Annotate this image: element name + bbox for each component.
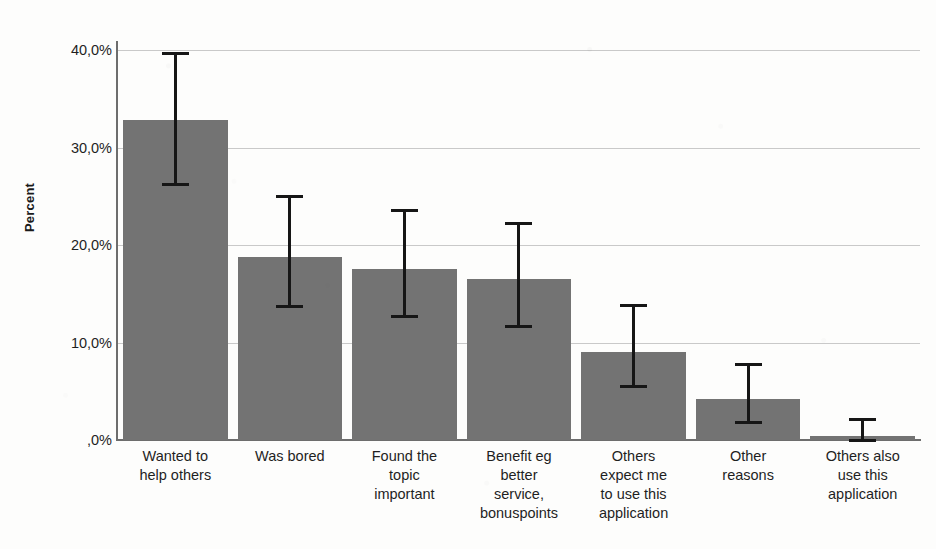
x-axis-label: Was bored bbox=[233, 447, 348, 466]
bar-group[interactable] bbox=[576, 50, 691, 440]
error-bar-cap-lower bbox=[620, 385, 647, 388]
error-bar-cap-upper bbox=[391, 209, 418, 212]
y-tick-label-30: 30,0% bbox=[38, 141, 112, 156]
x-axis-label: Benefit egbetterservice,bonuspoints bbox=[462, 447, 577, 523]
bar-group[interactable] bbox=[347, 50, 462, 440]
bar-group[interactable] bbox=[118, 50, 233, 440]
error-bar-cap-upper bbox=[735, 363, 762, 366]
error-bar-cap-lower bbox=[276, 305, 303, 308]
bar-chart: Percent ,0%10,0%20,0%30,0%40,0% Wanted t… bbox=[0, 0, 936, 549]
error-bar-cap-lower bbox=[391, 315, 418, 318]
bar-group[interactable] bbox=[233, 50, 348, 440]
error-bar-cap-upper bbox=[849, 418, 876, 421]
error-bar-cap-lower bbox=[849, 439, 876, 442]
y-tick-label-0: ,0% bbox=[38, 433, 112, 448]
error-bar-cap-upper bbox=[162, 52, 189, 55]
error-bar-cap-lower bbox=[505, 325, 532, 328]
error-bar-cap-upper bbox=[620, 304, 647, 307]
x-axis-label: Otherreasons bbox=[691, 447, 806, 485]
x-axis-label: Found thetopicimportant bbox=[347, 447, 462, 504]
error-bar-cap-upper bbox=[276, 195, 303, 198]
x-axis-category-labels: Wanted tohelp othersWas boredFound theto… bbox=[118, 447, 920, 547]
error-bar-line bbox=[747, 364, 750, 423]
error-bar-line bbox=[632, 305, 635, 386]
bar-group[interactable] bbox=[805, 50, 920, 440]
y-tick-label-40: 40,0% bbox=[38, 43, 112, 58]
plot-area bbox=[118, 50, 920, 440]
y-axis-tick-labels: ,0%10,0%20,0%30,0%40,0% bbox=[36, 0, 112, 549]
error-bar-line bbox=[861, 419, 864, 440]
bar-group[interactable] bbox=[462, 50, 577, 440]
y-axis-title: Percent bbox=[22, 183, 37, 232]
y-tick-label-20: 20,0% bbox=[38, 238, 112, 253]
error-bar-line bbox=[288, 196, 291, 306]
bar-group[interactable] bbox=[691, 50, 806, 440]
error-bar-line bbox=[403, 210, 406, 316]
error-bar-line bbox=[517, 223, 520, 326]
error-bar-cap-lower bbox=[162, 183, 189, 186]
y-tick-label-10: 10,0% bbox=[38, 336, 112, 351]
x-axis-label: Others alsouse thisapplication bbox=[805, 447, 920, 504]
error-bar-cap-lower bbox=[735, 421, 762, 424]
error-bar-line bbox=[174, 53, 177, 184]
x-axis-label: Othersexpect meto use thisapplication bbox=[576, 447, 691, 523]
x-axis-label: Wanted tohelp others bbox=[118, 447, 233, 485]
error-bar-cap-upper bbox=[505, 222, 532, 225]
